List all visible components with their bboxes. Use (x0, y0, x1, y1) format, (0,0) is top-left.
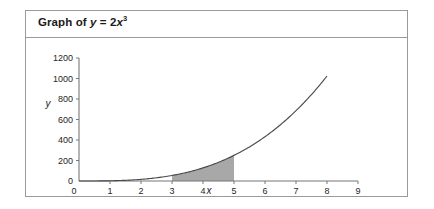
x-tick-label: 1 (107, 186, 112, 196)
y-tick-label: 600 (58, 115, 73, 125)
x-axis-tick-labels: 0123456789 (71, 186, 360, 196)
x-tick-label: 4 (200, 186, 205, 196)
y-tick-label: 400 (58, 135, 73, 145)
chart-title-prefix: Graph of (38, 16, 90, 28)
x-tick-label: 3 (169, 186, 174, 196)
x-tick-label: 8 (324, 186, 329, 196)
y-tick-label: 200 (58, 156, 73, 166)
y-tick-label: 0 (68, 176, 73, 186)
chart-title-exponent: 3 (123, 14, 127, 23)
x-tick-label: 5 (231, 186, 236, 196)
panel-header: Graph of y = 2x3 (26, 11, 407, 38)
figure-root: Graph of y = 2x3 020040060080010001200 0… (0, 0, 434, 209)
x-tick-label: 2 (138, 186, 143, 196)
chart-title: Graph of y = 2x3 (38, 16, 127, 28)
plot-area: 020040060080010001200 0123456789 y x (26, 39, 407, 197)
chart-svg: 020040060080010001200 0123456789 y x (26, 39, 407, 197)
x-tick-label: 0 (71, 186, 76, 196)
curve-line (79, 76, 327, 181)
y-tick-label: 1000 (53, 74, 73, 84)
y-tick-label: 1200 (53, 53, 73, 63)
x-tick-label: 9 (355, 186, 360, 196)
y-axis-tick-labels: 020040060080010001200 (53, 53, 73, 186)
x-tick-label: 7 (293, 186, 298, 196)
chart-panel: Graph of y = 2x3 020040060080010001200 0… (25, 10, 408, 197)
y-axis-title: y (45, 98, 52, 109)
x-tick-label: 6 (262, 186, 267, 196)
y-tick-label: 800 (58, 94, 73, 104)
x-axis-title: x (206, 185, 213, 196)
chart-title-equals: = 2 (97, 16, 117, 28)
